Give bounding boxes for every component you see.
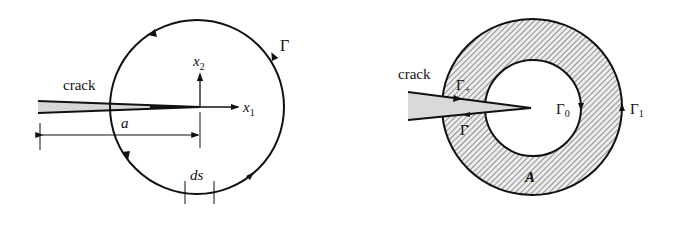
x1-axis-label: x1 xyxy=(242,99,255,118)
gamma-label: Γ xyxy=(280,37,289,54)
coordinate-axes xyxy=(200,74,238,148)
area-a-label: A xyxy=(524,169,535,185)
gamma-1-label: Γ1 xyxy=(630,101,644,119)
x2-axis-label: x2 xyxy=(192,53,205,72)
gamma-0-label: Γ0 xyxy=(556,101,570,119)
gamma-minus-label: Γ- xyxy=(460,120,469,138)
left-diagram: crack Γ x2 x1 a ds xyxy=(38,20,289,204)
crack-shape xyxy=(38,101,200,113)
j-integral-figure: crack Γ x2 x1 a ds crack Γ+ xyxy=(0,0,673,228)
crack-length-label: a xyxy=(121,115,129,131)
right-diagram: crack Γ+ Γ- Γ0 Γ1 A xyxy=(398,19,644,195)
ds-label: ds xyxy=(190,167,204,183)
crack-label-left: crack xyxy=(63,77,96,93)
crack-label-right: crack xyxy=(398,66,431,82)
